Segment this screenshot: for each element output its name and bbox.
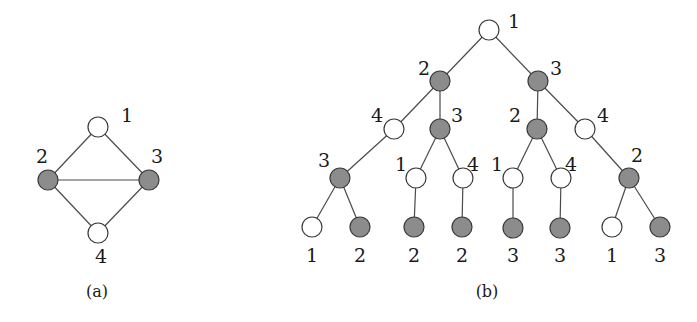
tree-b-node-label: 4 [565,153,577,175]
graph-a-edges [48,127,149,233]
tree-b-node-label: 3 [451,104,463,126]
tree-b-node-label: 1 [606,244,618,266]
tree-b-node-LRL [406,168,426,188]
tree-b: 123432431414212223313 (b) [302,10,670,301]
tree-b-nodes: 123432431414212223313 [302,10,670,266]
tree-b-node-label: 2 [456,244,468,266]
tree-b-node-l5 [503,218,523,238]
diagram-canvas: 1234 (a) 123432431414212223313 (b) [0,0,697,322]
tree-b-node-label: 3 [554,244,566,266]
graph-a: 1234 (a) [36,104,163,301]
tree-b-node-label: 2 [631,144,643,166]
tree-b-node-label: 1 [306,244,318,266]
graph-a-edge [98,180,149,233]
tree-b-node-RL [527,119,547,139]
tree-b-node-l6 [550,218,570,238]
tree-b-edges [312,30,660,228]
tree-b-node-LL [384,119,404,139]
tree-b-edge [340,129,394,178]
tree-b-node-RRR [619,168,639,188]
caption-b: (b) [476,282,499,301]
graph-a-node-label: 3 [151,145,163,167]
graph-a-nodes: 1234 [36,104,163,267]
graph-a-edge [48,180,98,233]
graph-a-node-label: 2 [36,145,48,167]
tree-b-node-label: 2 [509,104,521,126]
tree-b-node-label: 2 [354,244,366,266]
tree-b-node-label: 4 [371,104,383,126]
tree-b-node-label: 2 [418,57,430,79]
graph-a-edge [98,127,149,180]
caption-a: (a) [86,282,108,301]
tree-b-node-l2 [350,217,370,237]
tree-b-node-R [528,71,548,91]
tree-b-node-label: 4 [467,153,479,175]
tree-b-node-l8 [650,217,670,237]
tree-b-node-label: 1 [508,10,520,32]
tree-b-node-LR [430,119,450,139]
graph-a-node-label: 4 [95,245,107,267]
graph-a-edge [48,127,98,180]
tree-b-node-LLL [330,168,350,188]
tree-b-node-RLL [503,168,523,188]
graph-a-node-a1 [88,117,108,137]
tree-b-node-RR [575,119,595,139]
tree-b-node-label: 1 [395,153,407,175]
tree-b-node-label: 3 [550,57,562,79]
graph-a-node-a3 [139,170,159,190]
tree-b-node-label: 3 [507,244,519,266]
tree-b-node-label: 4 [597,104,609,126]
tree-b-edge [489,30,538,81]
graph-a-node-a2 [38,170,58,190]
tree-b-node-label: 1 [491,153,503,175]
tree-b-node-label: 2 [408,244,420,266]
graph-a-node-a4 [88,223,108,243]
tree-b-node-r [479,20,499,40]
graph-a-node-label: 1 [121,104,133,126]
tree-b-node-l4 [452,217,472,237]
tree-b-node-l3 [404,217,424,237]
tree-b-node-L [430,71,450,91]
tree-b-node-l7 [602,217,622,237]
tree-b-node-label: 3 [318,149,330,171]
tree-b-node-l1 [302,217,322,237]
tree-b-node-label: 3 [654,244,666,266]
tree-b-edge [440,30,489,81]
